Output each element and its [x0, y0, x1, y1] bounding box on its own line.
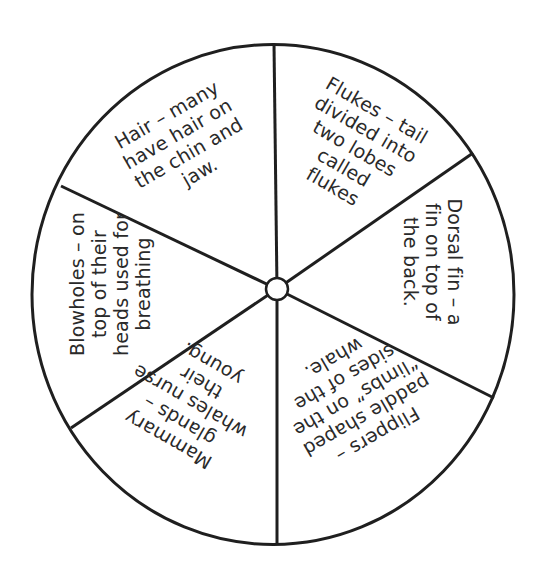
segment-dorsal-fin: Dorsal fin – a fin on top of the back. — [400, 187, 466, 337]
segment-text-line: Blowholes – on — [66, 209, 88, 359]
segment-blowholes: Blowholes – on top of their heads used f… — [66, 209, 154, 359]
center-hub — [266, 278, 288, 300]
segment-text-line: the back. — [400, 187, 422, 337]
segment-text-line: heads used for — [110, 209, 132, 359]
segment-text-line: breathing — [132, 209, 154, 359]
segment-text-line: top of their — [88, 209, 110, 359]
segment-text-line: Dorsal fin – a — [444, 187, 466, 337]
segment-text-line: fin on top of — [422, 187, 444, 337]
